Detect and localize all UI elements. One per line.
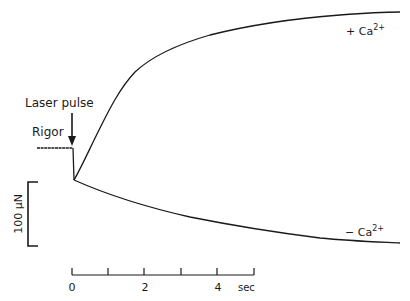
rigor-label: Rigor [32, 125, 64, 139]
tick-4: 4 [215, 281, 222, 294]
arrow-head-icon [68, 136, 76, 146]
tick-2: 2 [142, 281, 149, 294]
force-scale-bar [28, 182, 38, 246]
plus-ca-label: + Ca2+ [346, 23, 385, 38]
tick-0: 0 [69, 281, 76, 294]
pulse-drop [73, 148, 74, 180]
time-unit-label: sec [238, 282, 255, 293]
force-transient-chart: Laser pulse Rigor + Ca2+ − Ca2+ 100 µN 0… [0, 0, 410, 301]
laser-pulse-label: Laser pulse [25, 96, 94, 110]
time-axis [72, 268, 254, 275]
minus-ca-label: − Ca2+ [345, 224, 384, 239]
scale-bar-label: 100 µN [12, 194, 25, 234]
